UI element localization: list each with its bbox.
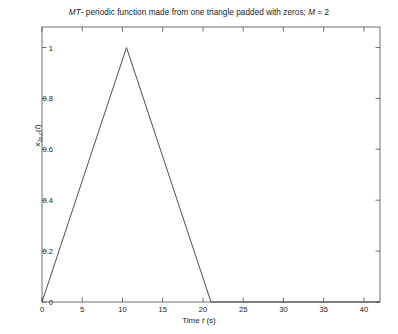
xtick-label-10: 10 (118, 305, 126, 314)
figure-canvas: MT- periodic function made from one tria… (0, 0, 398, 334)
y-axis-label-subscript: 2p,c (37, 132, 43, 143)
y-axis-ticks-right (376, 48, 381, 303)
xtick-label-15: 15 (158, 305, 166, 314)
xtick-label-30: 30 (279, 305, 287, 314)
x-axis-ticks (42, 298, 364, 303)
xtick-label-35: 35 (319, 305, 327, 314)
xtick-label-0: 0 (40, 305, 44, 314)
xtick-label-40: 40 (360, 305, 368, 314)
ytick-label-1: 1 (49, 43, 53, 52)
x-axis-label: Time t (s) (0, 316, 398, 325)
x-axis-label-units: (s) (204, 316, 216, 325)
ytick-label-0p6: 0.6 (42, 145, 53, 154)
y-axis-label-paren-close: ) (33, 124, 42, 127)
plot-area (0, 0, 398, 334)
xtick-label-25: 25 (239, 305, 247, 314)
data-series-triangle (42, 48, 380, 303)
y-axis-label-base: x (33, 143, 42, 147)
y-axis-label: x2p,c(t) (33, 101, 42, 171)
xtick-label-5: 5 (80, 305, 84, 314)
axes-box (42, 27, 380, 302)
xtick-label-20: 20 (199, 305, 207, 314)
ytick-label-0p2: 0.2 (42, 247, 53, 256)
x-axis-label-prefix: Time (182, 316, 202, 325)
y-axis-ticks (42, 48, 47, 303)
ytick-label-0p4: 0.4 (42, 196, 53, 205)
ytick-label-0: 0 (49, 298, 53, 307)
ytick-label-0p8: 0.8 (42, 94, 53, 103)
x-axis-ticks-top (42, 27, 364, 32)
